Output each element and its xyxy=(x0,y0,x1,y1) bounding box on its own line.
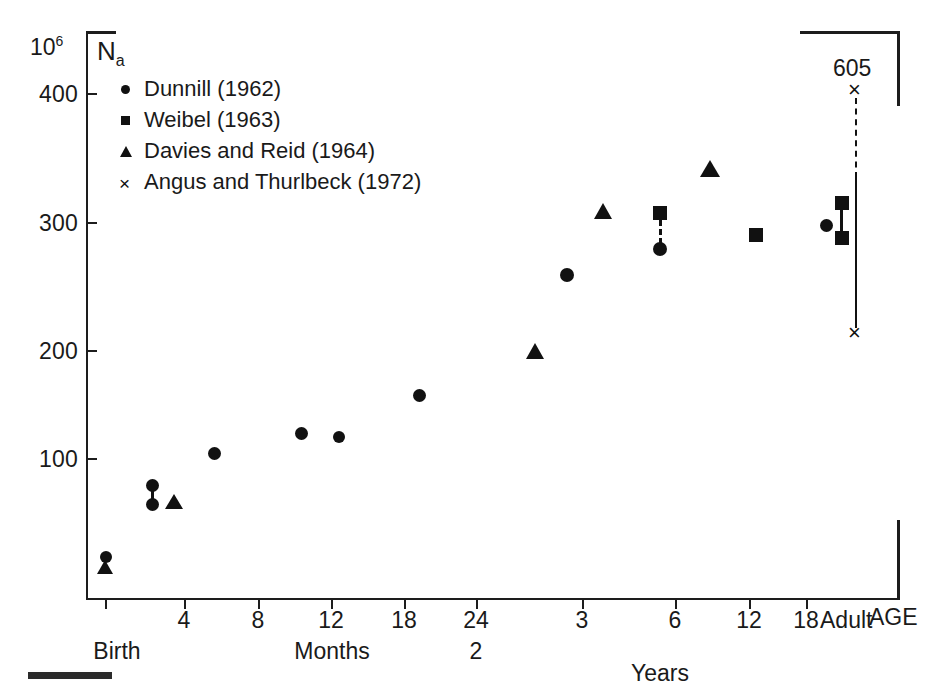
data-point-davies-5yr xyxy=(594,203,612,219)
frame-right-mask xyxy=(896,33,902,553)
x-axis-group-months: Months xyxy=(272,638,392,665)
y-tick-label-100: 100 xyxy=(20,446,78,473)
x-tick-label-6yr: 6 xyxy=(647,607,703,634)
legend-label-davies-reid: Davies and Reid (1964) xyxy=(144,138,375,164)
x-tick-label-4: 4 xyxy=(156,607,212,634)
frame-corner-top-right xyxy=(800,31,900,34)
data-point-angus-upper-605: × xyxy=(848,79,861,101)
x-tick-label-12yr: 12 xyxy=(721,607,777,634)
data-point-angus-lower: × xyxy=(848,322,861,344)
x-tick-label-24: 24 xyxy=(448,607,504,634)
legend-marker-x-icon: × xyxy=(119,174,139,200)
data-point-dunnill-8yr xyxy=(653,242,667,256)
data-point-davies-3yr xyxy=(526,343,544,359)
x-tick-birth xyxy=(105,598,107,609)
frame-top-mask xyxy=(88,29,900,34)
legend-label-weibel: Weibel (1963) xyxy=(144,107,281,133)
y-tick-label-300: 300 xyxy=(20,210,78,237)
y-tick-label-200: 200 xyxy=(20,338,78,365)
x-tick-label-18: 18 xyxy=(376,607,432,634)
connector-dunnill-3mo xyxy=(151,489,154,501)
data-point-weibel-14yr xyxy=(749,228,763,242)
data-point-dunnill-13mo xyxy=(295,427,308,440)
y-axis-title-main: N xyxy=(97,36,116,66)
legend-marker-square-icon xyxy=(118,107,138,133)
footer-rule xyxy=(28,672,112,679)
x-tick-label-2yr: 2 xyxy=(448,638,504,665)
data-point-dunnill-22mo xyxy=(413,389,426,402)
y-tick-label-400: 400 xyxy=(20,81,78,108)
x-tick-label-8: 8 xyxy=(230,607,286,634)
x-axis-group-years: Years xyxy=(600,660,720,687)
errorbar-angus-lower-solid xyxy=(855,176,857,328)
figure-scatter-alveolar-number: 106 Na 400 300 200 100 Dunnill (1962) We… xyxy=(0,0,934,698)
x-tick-label-3yr: 3 xyxy=(554,607,610,634)
data-point-davies-4mo xyxy=(165,494,183,509)
y-tick-100 xyxy=(86,458,97,460)
frame-corner-top-left xyxy=(86,31,116,34)
data-point-davies-birth xyxy=(97,560,113,574)
data-point-dunnill-4yr xyxy=(560,268,574,282)
y-axis-unit-base: 10 xyxy=(30,34,56,60)
x-tick-label-birth: Birth xyxy=(77,638,157,665)
data-point-dunnill-7mo xyxy=(208,447,221,460)
frame-right-lower xyxy=(897,520,900,600)
frame-right-upper xyxy=(897,31,900,106)
data-point-davies-11yr xyxy=(700,160,720,177)
data-point-dunnill-16mo xyxy=(333,431,345,443)
y-axis-title-sub: a xyxy=(116,52,125,69)
x-axis-caption-age: AGE xyxy=(869,604,918,631)
data-point-dunnill-adult xyxy=(820,219,833,232)
legend-label-angus-thurlbeck: Angus and Thurlbeck (1972) xyxy=(144,169,421,195)
legend-label-dunnill: Dunnill (1962) xyxy=(144,76,281,102)
annotation-605-label: 605 xyxy=(833,55,871,82)
errorbar-angus-upper-dashed xyxy=(855,98,857,178)
y-axis-unit-exponent: 6 xyxy=(56,33,64,49)
y-axis-title: Na xyxy=(97,36,125,70)
y-axis-unit: 106 xyxy=(30,33,63,61)
y-tick-400 xyxy=(86,93,97,95)
connector-weibel-dunnill-8yr xyxy=(659,220,662,244)
connector-weibel-adult-range xyxy=(840,208,843,234)
y-tick-300 xyxy=(86,222,97,224)
data-point-weibel-8yr xyxy=(653,206,667,220)
y-tick-200 xyxy=(86,350,97,352)
legend-marker-circle-icon xyxy=(118,76,138,102)
legend-marker-triangle-icon xyxy=(118,138,138,164)
x-tick-label-12: 12 xyxy=(303,607,359,634)
